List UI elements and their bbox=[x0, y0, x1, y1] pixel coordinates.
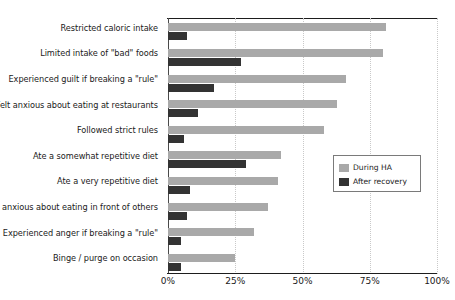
category-label: Binge / purge on occasion bbox=[53, 254, 158, 263]
category-label: Felt anxious about eating at restaurants bbox=[0, 101, 158, 110]
legend-swatch-during-ha bbox=[339, 164, 349, 172]
x-tick-label: 100% bbox=[424, 276, 450, 286]
bar-after-recovery bbox=[168, 135, 184, 143]
bar-during-ha bbox=[168, 23, 386, 31]
bar-after-recovery bbox=[168, 237, 181, 245]
plot-area bbox=[168, 18, 437, 274]
bar-after-recovery bbox=[168, 58, 241, 66]
bar-during-ha bbox=[168, 49, 383, 57]
x-tick-label: 25% bbox=[225, 276, 245, 286]
bar-chart: Restricted caloric intakeLimited intake … bbox=[0, 0, 455, 300]
bar-after-recovery bbox=[168, 84, 214, 92]
legend-item-after-recovery: After recovery bbox=[339, 177, 407, 186]
legend-item-during-ha: During HA bbox=[339, 163, 392, 172]
bar-during-ha bbox=[168, 203, 268, 211]
category-label: Limited intake of "bad" foods bbox=[40, 49, 158, 58]
x-tick-label: 0% bbox=[161, 276, 175, 286]
bar-group bbox=[168, 228, 437, 245]
bar-after-recovery bbox=[168, 263, 181, 271]
x-tick-label: 50% bbox=[292, 276, 312, 286]
bar-during-ha bbox=[168, 177, 278, 185]
category-label: Ate a somewhat repetitive diet bbox=[33, 152, 158, 161]
bar-during-ha bbox=[168, 228, 254, 236]
bar-group bbox=[168, 23, 437, 40]
category-label: Ate a very repetitive diet bbox=[57, 177, 158, 186]
legend-label-during-ha: During HA bbox=[353, 163, 392, 172]
bar-during-ha bbox=[168, 75, 346, 83]
bar-group bbox=[168, 254, 437, 271]
bar-after-recovery bbox=[168, 32, 187, 40]
bar-group bbox=[168, 75, 437, 92]
x-tick-label: 75% bbox=[360, 276, 380, 286]
bar-group bbox=[168, 100, 437, 117]
category-label: Experienced guilt if breaking a "rule" bbox=[8, 75, 158, 84]
bar-after-recovery bbox=[168, 109, 198, 117]
plot-bottom-border bbox=[167, 273, 437, 274]
bar-after-recovery bbox=[168, 160, 246, 168]
gridline bbox=[437, 18, 438, 274]
bar-group bbox=[168, 203, 437, 220]
category-label: Followed strict rules bbox=[77, 126, 158, 135]
bar-during-ha bbox=[168, 151, 281, 159]
bar-during-ha bbox=[168, 254, 235, 262]
category-label: Restricted caloric intake bbox=[61, 24, 159, 33]
category-label: Felt anxious about eating in front of ot… bbox=[0, 203, 158, 212]
bar-group bbox=[168, 126, 437, 143]
category-label: Experienced anger if breaking a "rule" bbox=[3, 229, 158, 238]
legend-label-after-recovery: After recovery bbox=[353, 177, 407, 186]
bar-during-ha bbox=[168, 126, 324, 134]
chart-legend: During HA After recovery bbox=[333, 155, 421, 192]
x-axis-tick-labels: 0%25%50%75%100% bbox=[168, 276, 437, 294]
bar-group bbox=[168, 49, 437, 66]
bar-after-recovery bbox=[168, 186, 190, 194]
category-axis-labels: Restricted caloric intakeLimited intake … bbox=[0, 18, 163, 274]
bar-during-ha bbox=[168, 100, 337, 108]
bar-after-recovery bbox=[168, 212, 187, 220]
legend-swatch-after-recovery bbox=[339, 178, 349, 186]
